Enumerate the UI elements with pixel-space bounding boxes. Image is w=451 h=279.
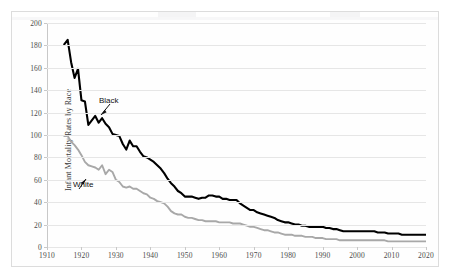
series-label-black: Black [99,96,119,105]
x-tick-label: 1910 [39,251,55,260]
gridline [47,68,426,69]
plot-area: 020406080100120140160180200 191019201930… [47,23,426,247]
y-tick-mark [44,68,47,69]
gridline [47,225,426,226]
x-tick-mark [254,247,255,250]
y-tick-label: 120 [30,108,42,117]
x-tick-label: 2020 [418,251,434,260]
y-tick-label: 140 [30,86,42,95]
x-tick-mark [81,247,82,250]
x-tick-mark [392,247,393,250]
y-tick-mark [44,202,47,203]
y-tick-label: 60 [34,175,42,184]
y-tick-mark [44,23,47,24]
x-tick-label: 1930 [108,251,124,260]
y-tick-label: 160 [30,63,42,72]
scan-artifact [12,17,438,20]
x-tick-label: 2010 [384,251,400,260]
x-tick-label: 1940 [142,251,158,260]
y-tick-mark [44,45,47,46]
y-tick-label: 200 [30,19,42,28]
chart-figure: Infant Mortality Rates by Race 020406080… [0,0,451,279]
x-tick-mark [357,247,358,250]
x-tick-mark [150,247,151,250]
gridline [47,113,426,114]
x-tick-label: 1990 [315,251,331,260]
x-tick-label: 1980 [280,251,296,260]
y-tick-label: 40 [34,198,42,207]
x-tick-label: 1970 [246,251,262,260]
y-tick-mark [44,90,47,91]
y-tick-mark [44,180,47,181]
gridline [47,157,426,158]
y-tick-label: 80 [34,153,42,162]
series-label-white: White [73,180,93,189]
gridline [47,180,426,181]
gridline [47,202,426,203]
x-tick-label: 2000 [349,251,365,260]
line-black [64,40,426,235]
x-tick-mark [219,247,220,250]
y-tick-mark [44,157,47,158]
x-tick-label: 1960 [211,251,227,260]
line-white [64,136,426,241]
x-tick-mark [116,247,117,250]
y-tick-label: 100 [30,131,42,140]
x-tick-mark [185,247,186,250]
x-tick-mark [426,247,427,250]
x-tick-mark [323,247,324,250]
gridline [47,45,426,46]
x-tick-mark [288,247,289,250]
y-tick-label: 20 [34,220,42,229]
y-tick-mark [44,135,47,136]
y-tick-mark [44,225,47,226]
x-tick-label: 1950 [177,251,193,260]
y-tick-mark [44,113,47,114]
gridline [47,90,426,91]
y-tick-label: 180 [30,41,42,50]
gridline [47,135,426,136]
gridline [47,23,426,24]
x-tick-label: 1920 [74,251,90,260]
gridline [47,247,426,248]
x-tick-mark [47,247,48,250]
